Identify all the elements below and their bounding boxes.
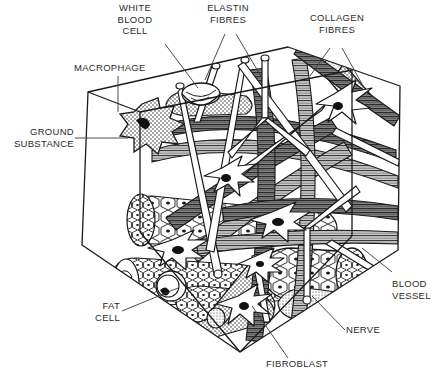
label-collagen-fibres: COLLAGEN FIBRES (302, 12, 372, 35)
label-macrophage: MACROPHAGE (74, 62, 164, 74)
figure-container: WHITE BLOOD CELL ELASTIN FIBRES COLLAGEN… (0, 0, 437, 380)
label-elastin-fibres: ELASTIN FIBRES (196, 2, 260, 25)
label-fibroblast: FIBROBLAST (266, 358, 346, 370)
label-ground-substance: GROUND SUBSTANCE (0, 126, 74, 149)
white-blood-cell-body (182, 83, 220, 105)
label-white-blood-cell: WHITE BLOOD CELL (104, 2, 166, 37)
label-fat-cell: FAT CELL (62, 300, 120, 323)
nerve-bundle-right (278, 288, 359, 320)
label-nerve: NERVE (346, 324, 396, 336)
connective-tissue-diagram (0, 0, 437, 380)
label-blood-vessel: BLOOD VESSEL (392, 278, 437, 301)
fat-cell-single (156, 271, 186, 301)
